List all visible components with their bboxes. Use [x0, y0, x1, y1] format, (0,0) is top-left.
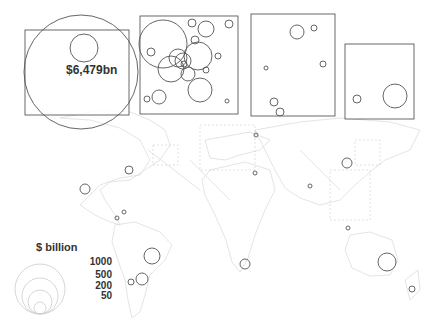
gdp-bubble — [80, 184, 90, 194]
gdp-bubble — [128, 279, 134, 285]
gdp-bubble — [409, 286, 415, 292]
gdp-bubble — [136, 273, 148, 285]
gdp-bubble — [240, 259, 250, 269]
europe-inset — [140, 16, 238, 114]
gdp-bubble — [253, 171, 257, 175]
legend-title: $ billion — [36, 241, 78, 253]
world-map — [0, 0, 439, 327]
gdp-bubble — [144, 248, 160, 264]
gdp-bubble — [125, 166, 133, 174]
southeast-asia-inset — [251, 14, 335, 116]
east-asia-inset — [345, 44, 414, 119]
continent-outlines — [60, 110, 420, 318]
legend-value-1000: 1000 — [72, 256, 112, 267]
legend-value-50: 50 — [72, 290, 112, 301]
gdp-bubble — [346, 226, 350, 230]
headline-value-label: $6,479bn — [66, 63, 117, 77]
region-frames — [153, 125, 380, 220]
gdp-bubble — [342, 158, 352, 168]
legend-value-500: 500 — [72, 269, 112, 280]
gdp-bubble — [308, 184, 312, 188]
gdp-bubble — [122, 210, 126, 214]
legend-circles — [15, 264, 65, 314]
gdp-bubble — [378, 253, 396, 271]
